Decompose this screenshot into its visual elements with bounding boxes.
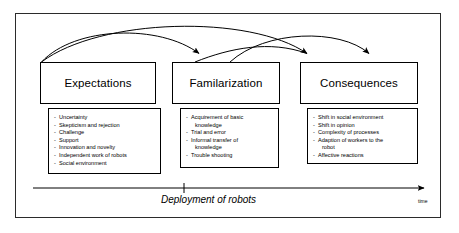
stage-title-familarization[interactable]: Familarization bbox=[172, 62, 280, 104]
list-item: Trial and error bbox=[186, 129, 274, 137]
stage-list-consequences: Shift in social environment Shift in opi… bbox=[307, 108, 418, 164]
list-item: Complexity of processes bbox=[313, 129, 413, 137]
list-item: Shift in opinion bbox=[313, 122, 413, 130]
list-item: Skepticism and rejection bbox=[54, 122, 156, 130]
list-item: Independent work of robots bbox=[54, 152, 156, 160]
list-item: Trouble shooting bbox=[186, 152, 274, 160]
timeline-label: Deployment of robots bbox=[161, 194, 256, 205]
stage-list-familarization: Acquirement of basic knowledge Trial and… bbox=[180, 108, 279, 168]
stage-title-expectations[interactable]: Expectations bbox=[40, 62, 156, 104]
time-axis-label: time bbox=[418, 198, 427, 204]
list-item: Social environment bbox=[54, 160, 156, 168]
list-item: Innovation and novelty bbox=[54, 144, 156, 152]
list-item: Adaption of workers to the bbox=[313, 137, 413, 145]
stage-title-consequences[interactable]: Consequences bbox=[300, 62, 418, 104]
list-item-continuation: knowledge bbox=[186, 144, 274, 152]
stage-list-items-expectations: Uncertainty Skepticism and rejection Cha… bbox=[54, 114, 156, 167]
list-item: Informal transfer of bbox=[186, 137, 274, 145]
stage-list-items-familarization: Acquirement of basic knowledge Trial and… bbox=[186, 114, 274, 160]
list-item: Affective reactions bbox=[313, 152, 413, 160]
stage-list-expectations: Uncertainty Skepticism and rejection Cha… bbox=[48, 108, 161, 174]
list-item: Uncertainty bbox=[54, 114, 156, 122]
list-item-continuation: knowledge bbox=[186, 122, 274, 130]
list-item-continuation: robot bbox=[313, 144, 413, 152]
list-item: Support bbox=[54, 137, 156, 145]
list-item: Acquirement of basic bbox=[186, 114, 274, 122]
list-item: Shift in social environment bbox=[313, 114, 413, 122]
process-diagram: Expectations Uncertainty Skepticism and … bbox=[0, 0, 459, 233]
stage-list-items-consequences: Shift in social environment Shift in opi… bbox=[313, 114, 413, 160]
list-item: Challenge bbox=[54, 129, 156, 137]
